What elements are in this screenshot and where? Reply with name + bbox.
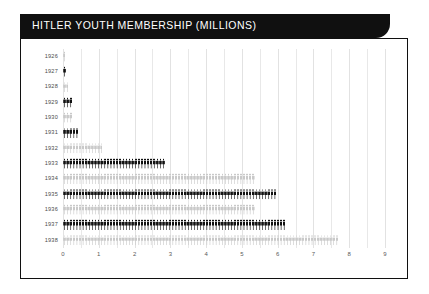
chart-panel: 1926192719281929193019311932193319341935…: [20, 38, 408, 279]
person-icon: [273, 189, 276, 200]
chart-title-bar: HITLER YOUTH MEMBERSHIP (MILLIONS): [20, 14, 390, 38]
x-axis-tick-4: 4: [204, 251, 207, 257]
bar-1928: [63, 82, 68, 93]
bar-1926: [63, 51, 65, 62]
chart-row: 1929: [63, 95, 385, 110]
y-axis-label-1933: 1933: [45, 161, 58, 167]
bar-1934: [63, 174, 256, 185]
bar-1935: [63, 189, 278, 200]
y-axis-label-1926: 1926: [45, 54, 58, 60]
chart-row: 1931: [63, 126, 385, 141]
person-icon: [252, 174, 255, 185]
person-icon: [162, 158, 165, 169]
y-axis-label-1929: 1929: [45, 100, 58, 106]
x-axis: 0123456789: [63, 251, 385, 265]
bar-rows: 1926192719281929193019311932193319341935…: [63, 49, 385, 248]
bar-1931: [63, 128, 78, 139]
plot-area: 1926192719281929193019311932193319341935…: [63, 49, 385, 248]
x-axis-tick-3: 3: [169, 251, 172, 257]
infographic-panel: HITLER YOUTH MEMBERSHIP (MILLIONS) 19261…: [20, 14, 410, 281]
bar-1929: [63, 97, 72, 108]
chart-row: 1936: [63, 202, 385, 217]
y-axis-label-1930: 1930: [45, 115, 58, 121]
bar-1930: [63, 112, 72, 123]
y-axis-label-1932: 1932: [45, 146, 58, 152]
person-icon: [252, 204, 255, 215]
bar-1932: [63, 143, 102, 154]
chart-row: 1933: [63, 156, 385, 171]
bar-1937: [63, 220, 285, 231]
chart-row: 1938: [63, 233, 385, 248]
x-axis-tick-0: 0: [61, 251, 64, 257]
page-title: HITLER YOUTH MEMBERSHIP (MILLIONS): [32, 19, 256, 31]
x-axis-tick-6: 6: [276, 251, 279, 257]
bar-1933: [63, 158, 167, 169]
person-icon: [100, 143, 102, 154]
person-icon: [63, 51, 65, 62]
gridline: [385, 49, 386, 248]
bar-1938: [63, 235, 338, 246]
person-icon: [69, 112, 72, 123]
person-icon: [63, 66, 66, 77]
chart-row: 1932: [63, 141, 385, 156]
person-icon: [75, 128, 78, 139]
chart-row: 1934: [63, 171, 385, 186]
person-icon: [66, 82, 68, 93]
person-icon: [335, 235, 338, 246]
y-axis-label-1938: 1938: [45, 238, 58, 244]
y-axis-label-1935: 1935: [45, 192, 58, 198]
person-icon: [69, 97, 72, 108]
chart-row: 1927: [63, 64, 385, 79]
x-axis-tick-5: 5: [240, 251, 243, 257]
bar-1927: [63, 66, 66, 77]
bar-1936: [63, 204, 256, 215]
y-axis-label-1931: 1931: [45, 130, 58, 136]
chart-row: 1935: [63, 187, 385, 202]
chart-row: 1926: [63, 49, 385, 64]
x-axis-tick-7: 7: [312, 251, 315, 257]
x-axis-tick-1: 1: [97, 251, 100, 257]
y-axis-label-1934: 1934: [45, 176, 58, 182]
y-axis-label-1928: 1928: [45, 84, 58, 90]
y-axis-label-1937: 1937: [45, 222, 58, 228]
x-axis-tick-2: 2: [133, 251, 136, 257]
x-axis-tick-8: 8: [348, 251, 351, 257]
chart-row: 1928: [63, 80, 385, 95]
chart-row: 1930: [63, 110, 385, 125]
y-axis-label-1936: 1936: [45, 207, 58, 213]
x-axis-tick-9: 9: [383, 251, 386, 257]
chart-row: 1937: [63, 217, 385, 232]
person-icon: [283, 220, 285, 231]
y-axis-label-1927: 1927: [45, 69, 58, 75]
